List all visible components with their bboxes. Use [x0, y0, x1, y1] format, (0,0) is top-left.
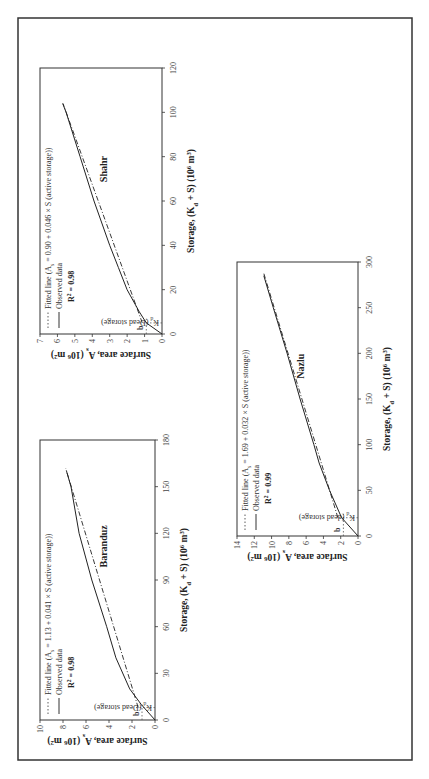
legend-fitted-line: Fitted line (As = 1.13 + 0.041 × S (acti… — [44, 533, 55, 695]
x-tick-label: 100 — [169, 106, 178, 118]
chart-title-shahr: Shahr — [98, 155, 109, 182]
chart-title-nazlu: Nazlu — [295, 353, 306, 378]
dead-storage-label: Kd (dead storage) — [299, 511, 355, 522]
x-axis-title: Storage, (Kd + S) (106 m3) — [178, 528, 192, 632]
chart-shahr: 02040608010012001234567Storage, (Kd + S)… — [36, 62, 199, 362]
x-tick-label: 250 — [365, 302, 374, 314]
x-tick-label: 200 — [365, 347, 374, 359]
x-tick-label: 150 — [365, 393, 374, 405]
y-tick-label: 3 — [106, 339, 115, 343]
y-tick-label: 10 — [268, 541, 277, 549]
chart-title-baranduz: Baranduz — [98, 525, 109, 568]
y-tick-label: 0 — [158, 339, 167, 343]
y-tick-label: 0 — [151, 725, 160, 729]
x-tick-label: 120 — [162, 527, 171, 539]
x-tick-label: 300 — [365, 256, 374, 268]
charts-group: 02040608010012001234567Storage, (Kd + S)… — [36, 62, 395, 748]
y-tick-label: 6 — [53, 339, 62, 343]
legend-fitted-line: Fitted line (As = 1.69 + 0.032 × S (acti… — [241, 349, 252, 511]
r-squared-label: R2 = 0.98 — [66, 657, 76, 688]
y-tick-label: 0 — [354, 541, 363, 545]
y-tick-label: 4 — [88, 339, 97, 343]
y-tick-label: 2 — [123, 339, 132, 343]
legend-observed-data: Observed data — [55, 649, 64, 695]
y-axis-title: Surface area, As (106 m2) — [247, 550, 347, 564]
fitted-line — [264, 273, 338, 518]
x-tick-label: 0 — [162, 718, 171, 722]
y-tick-label: 4 — [105, 725, 114, 729]
x-tick-label: 0 — [169, 332, 178, 336]
y-tick-label: 4 — [319, 541, 328, 545]
x-tick-label: 120 — [169, 62, 178, 74]
x-tick-label: 80 — [169, 153, 178, 161]
y-tick-label: 12 — [250, 541, 259, 549]
figure-border — [18, 18, 412, 760]
intercept-b-label: b — [333, 527, 342, 532]
y-tick-label: 6 — [302, 541, 311, 545]
y-tick-label: 14 — [233, 541, 242, 549]
x-tick-label: 0 — [365, 534, 374, 538]
y-axis-title: Surface area, As (106 m2) — [51, 348, 151, 362]
x-tick-label: 20 — [169, 286, 178, 294]
fitted-line — [66, 468, 139, 708]
y-tick-label: 5 — [71, 339, 80, 343]
y-tick-label: 6 — [82, 725, 91, 729]
y-tick-label: 7 — [36, 339, 45, 343]
y-tick-label: 1 — [141, 339, 150, 343]
legend-observed-data: Observed data — [55, 263, 64, 309]
y-tick-label: 8 — [59, 725, 68, 729]
figure-page: 02040608010012001234567Storage, (Kd + S)… — [0, 0, 429, 779]
chart-nazlu: 05010015020025030002468101214Storage, (K… — [233, 256, 395, 564]
y-tick-label: 2 — [337, 541, 346, 545]
y-tick-label: 10 — [36, 725, 45, 733]
y-axis-title: Surface area, As (106 m2) — [47, 734, 147, 748]
y-tick-label: 8 — [285, 541, 294, 545]
r-squared-label: R2 = 0.99 — [263, 473, 273, 504]
r-squared-label: R2 = 0.98 — [66, 271, 76, 302]
x-axis-title: Storage, (Kd + S) (106 m3) — [185, 149, 199, 253]
x-tick-label: 90 — [162, 576, 171, 584]
observed-data-line — [264, 276, 358, 536]
observed-data-line — [63, 104, 162, 335]
legend-fitted-line: Fitted line (As = 0.90 + 0.046 × S (acti… — [44, 147, 55, 309]
x-tick-label: 40 — [169, 241, 178, 249]
x-tick-label: 30 — [162, 669, 171, 677]
x-tick-label: 100 — [365, 439, 374, 451]
figure-canvas: 02040608010012001234567Storage, (Kd + S)… — [0, 0, 429, 779]
chart-baranduz: 03060901201501800246810Storage, (Kd + S)… — [36, 434, 192, 748]
legend-observed-data: Observed data — [252, 465, 261, 511]
observed-data-line — [67, 471, 156, 720]
x-tick-label: 50 — [365, 486, 374, 494]
x-tick-label: 150 — [162, 481, 171, 493]
x-tick-label: 60 — [162, 623, 171, 631]
x-tick-label: 180 — [162, 434, 171, 446]
x-tick-label: 60 — [169, 197, 178, 205]
y-tick-label: 2 — [128, 725, 137, 729]
x-axis-title: Storage, (Kd + S) (106 m3) — [381, 347, 395, 451]
